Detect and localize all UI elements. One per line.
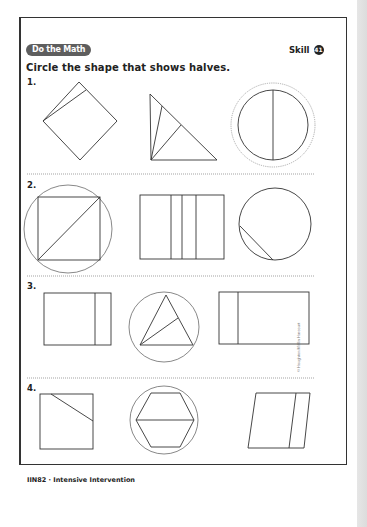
- problem-4-option-2-hexagon[interactable]: [130, 386, 198, 454]
- problem-2-option-2-rectangle[interactable]: [140, 195, 224, 259]
- copyright-notice: © Houghton Mifflin Harcourt: [296, 323, 301, 372]
- problem-2-option-3-circle[interactable]: [239, 188, 311, 260]
- problem-1-option-2-triangle[interactable]: [150, 94, 217, 160]
- problem-4-option-3-parallelogram[interactable]: [248, 393, 310, 448]
- problem-3-option-2-triangle[interactable]: [129, 292, 199, 362]
- answer-circle: [129, 292, 199, 362]
- problem-1-option-1-square[interactable]: [43, 82, 117, 160]
- problem-4-option-1-square[interactable]: [40, 394, 93, 449]
- problem-3-option-1-rectangle[interactable]: [44, 293, 111, 345]
- problem-2-option-1-square[interactable]: [24, 185, 112, 273]
- footer-label: IIN82 · Intensive Intervention: [27, 476, 135, 484]
- problem-1-option-3-circle[interactable]: [231, 83, 315, 167]
- shapes-canvas: [0, 0, 367, 527]
